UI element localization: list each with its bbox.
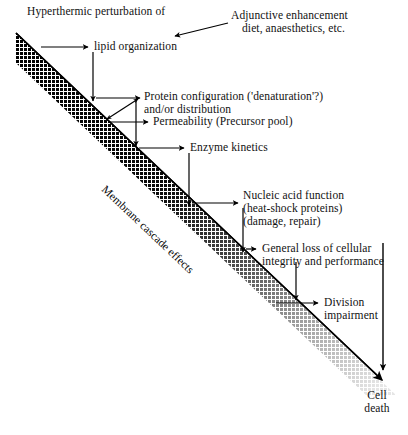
label-cell-death-line2: death (355, 402, 399, 416)
label-cell-death-line1: Cell (355, 389, 399, 403)
label-division-line2: impairment (324, 309, 378, 323)
label-permeability: Permeability (Precursor pool) (153, 115, 293, 129)
label-nucleic-acid-line2: (heat-shock proteins) (243, 202, 343, 216)
label-hyperthermic-perturbation: Hyperthermic perturbation of (27, 5, 165, 19)
label-adjunctive-line2: diet, anaesthetics, etc. (242, 22, 345, 36)
label-adjunctive-line1: Adjunctive enhancement (231, 9, 348, 23)
label-nucleic-acid-line1: Nucleic acid function (243, 189, 344, 203)
hyperthermia-cascade-figure: Hyperthermic perturbation of lipid organ… (0, 0, 408, 435)
arrow-adjunctive (175, 23, 228, 36)
diagram-canvas (0, 0, 408, 435)
label-enzyme-kinetics: Enzyme kinetics (190, 141, 268, 155)
label-division-line1: Division (324, 296, 364, 310)
label-lipid-organization: lipid organization (94, 40, 177, 54)
label-nucleic-acid-line3: (damage, repair) (243, 215, 321, 229)
label-general-loss-line2: integrity and performance (262, 255, 384, 269)
label-protein-configuration-line1: Protein configuration ('denaturation'?) (144, 90, 323, 104)
label-general-loss-line1: General loss of cellular (262, 242, 371, 256)
